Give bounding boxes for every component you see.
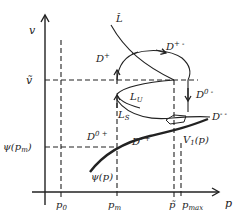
region-d-plus-minus: D+ -	[165, 40, 185, 52]
l-u-curve	[117, 80, 174, 108]
region-d-plus: D+	[95, 52, 110, 64]
region-d-minus-minus: D- -	[211, 110, 228, 122]
v1-label: V1(p)	[183, 134, 209, 147]
x-axis-label: p	[225, 197, 232, 210]
intersection-loop	[166, 115, 186, 124]
ptilde-label: p̃	[169, 199, 176, 210]
l-u-label: LU	[129, 91, 144, 104]
p0-label: p0	[56, 199, 67, 212]
region-d-minus-plus: D- +	[131, 135, 151, 147]
top-arc-trajectory	[132, 51, 190, 80]
l-s-label: LS	[117, 109, 130, 122]
pm-label: pm	[108, 199, 121, 212]
psi-label: ψ(p)	[91, 171, 113, 182]
y-axis-label: v	[29, 24, 36, 37]
phase-diagram: v p ṽ ψ(pm) p0 pm p̃ pmax L̂ LU LS ψ(p) …	[0, 0, 243, 220]
d-plus-trajectory	[117, 52, 138, 80]
region-d-zero-plus: D0 +	[86, 130, 108, 142]
l-hat-label: L̂	[115, 13, 123, 24]
l-s-curve	[117, 100, 210, 119]
vtilde-label: ṽ	[26, 74, 33, 87]
psi-pm-label: ψ(pm)	[3, 141, 32, 154]
region-d-zero-minus: D0 -	[195, 88, 214, 100]
pmax-label: pmax	[182, 199, 203, 212]
